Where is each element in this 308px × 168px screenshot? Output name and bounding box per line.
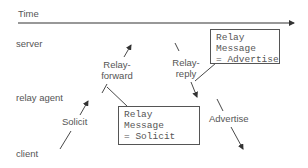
relay-forward-label-line1: Relay- [98,59,136,70]
lane-label-relay-agent: relay agent [16,92,63,103]
solicit-callout-connector [107,87,128,107]
relay-forward-label: Relay- forward [98,59,136,81]
callout-line: = Solicit [124,131,196,142]
callout-line: Message [216,43,276,54]
relay-forward-label-line2: forward [98,70,136,81]
time-label: Time [18,8,39,19]
relay-message-advertise-callout: Relay Message = Advertise [210,29,280,64]
lane-label-server: server [16,38,42,49]
callout-line: = Advertise [216,54,276,65]
callout-line: Relay [216,32,276,43]
advertise-label: Advertise [209,113,249,124]
callout-line: Message [124,120,196,131]
relay-reply-label-line2: reply [171,68,201,79]
solicit-label: Solicit [62,116,87,127]
dhcp-relay-sequence-diagram: Time server relay agent client Solicit R… [0,0,308,168]
relay-reply-label-line1: Relay- [171,57,201,68]
relay-reply-label: Relay- reply [171,57,201,79]
lane-label-client: client [16,148,38,159]
callout-line: Relay [124,109,196,120]
relay-message-solicit-callout: Relay Message = Solicit [118,106,200,145]
advertise-arrow [217,99,243,149]
